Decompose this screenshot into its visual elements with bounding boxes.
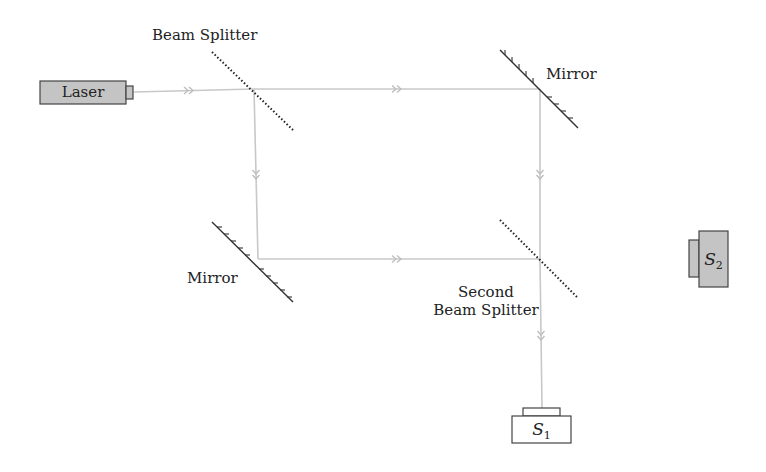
detector-s1-label: S1	[512, 419, 571, 446]
detector-s2-label: S2	[699, 249, 728, 276]
detector-s1-label-sub: 1	[544, 429, 551, 442]
detector-s2-label-main: S	[704, 249, 716, 269]
second-beam-splitter-label: Second Beam Splitter	[432, 283, 540, 319]
interferometer-diagram	[0, 0, 766, 472]
beam-splitter-label: Beam Splitter	[152, 26, 257, 44]
mirror-bottom-left	[212, 222, 293, 302]
mirror-top-right-label: Mirror	[546, 65, 597, 83]
detector-s1-label-main: S	[532, 419, 544, 439]
second-beam-splitter-label-line2: Beam Splitter	[432, 301, 540, 319]
mirror-bottom-left-label: Mirror	[187, 269, 238, 287]
laser-label: Laser	[40, 83, 126, 102]
beam-splitter-1	[212, 52, 294, 131]
beam-paths	[134, 89, 542, 408]
detector-s2-label-sub: 2	[716, 259, 723, 272]
second-beam-splitter-label-line1: Second	[432, 283, 540, 301]
beam-laser-to-splitter	[134, 89, 254, 92]
